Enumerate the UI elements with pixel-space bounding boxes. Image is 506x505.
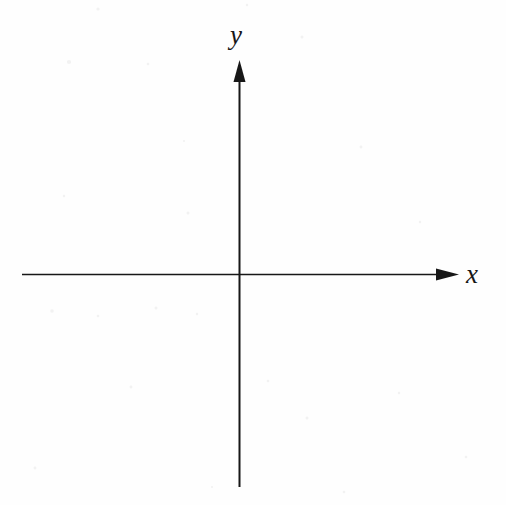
x-axis-arrowhead-icon (436, 269, 459, 281)
x-axis-label: x (466, 261, 478, 288)
axes-drawing (0, 0, 506, 505)
y-axis-label: y (230, 22, 242, 49)
coordinate-plane-figure: y x (0, 0, 506, 505)
y-axis-arrowhead-icon (234, 60, 246, 82)
